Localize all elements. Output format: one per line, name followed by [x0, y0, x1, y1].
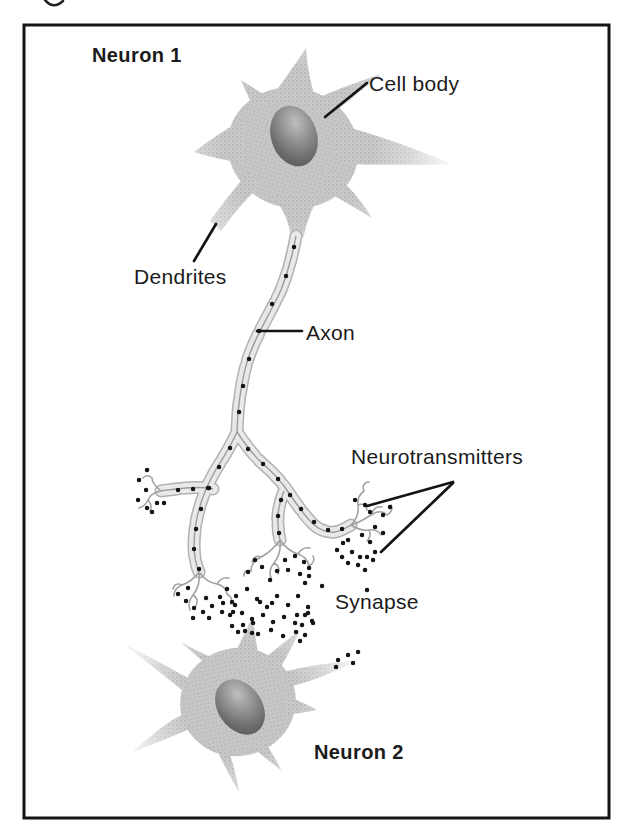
figure-canvas: Neuron 1 Cell body Dendrites Axon Neurot…: [0, 0, 618, 836]
label-dendrites: Dendrites: [134, 265, 227, 289]
caption-fragment-mark: [45, 0, 63, 5]
label-axon: Axon: [306, 321, 355, 345]
label-cell-body: Cell body: [369, 72, 459, 96]
label-neuron-2: Neuron 2: [314, 740, 404, 764]
label-neuron-1: Neuron 1: [92, 43, 182, 67]
label-neurotransmitters: Neurotransmitters: [351, 445, 523, 469]
label-synapse: Synapse: [335, 590, 419, 614]
neuron-diagram-artwork: [0, 0, 618, 836]
